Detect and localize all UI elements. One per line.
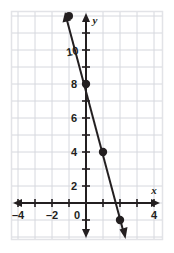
y-tick-label-4: 4 <box>71 146 78 158</box>
data-point <box>65 12 73 20</box>
y-tick-label-6: 6 <box>71 112 77 124</box>
data-point <box>82 80 90 88</box>
x-tick-label-4: 4 <box>151 209 158 221</box>
data-point <box>99 148 107 156</box>
x-tick-label-neg4: –4 <box>12 209 25 221</box>
y-tick-label-8: 8 <box>71 78 77 90</box>
coordinate-graph-figure: –4 –2 0 4 2 4 6 8 10 x y <box>0 0 174 253</box>
y-tick-label-2: 2 <box>71 180 77 192</box>
x-axis-label: x <box>150 184 157 196</box>
plot-area: –4 –2 0 4 2 4 6 8 10 x y <box>0 0 174 253</box>
y-axis-label: y <box>91 14 98 26</box>
x-tick-label-zero: 0 <box>74 209 80 221</box>
x-tick-label-neg2: –2 <box>46 209 58 221</box>
data-point <box>116 216 124 224</box>
